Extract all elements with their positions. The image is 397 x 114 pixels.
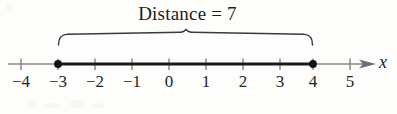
tick-label-pos4: 4 <box>296 72 330 92</box>
endpoint-dot-left <box>54 60 62 68</box>
endpoint-dot-right <box>309 60 317 68</box>
number-line-svg <box>0 0 397 114</box>
tick-label-pos2: 2 <box>226 72 260 92</box>
tick-label-neg1: −1 <box>115 72 149 92</box>
tick-label-pos3: 3 <box>263 72 297 92</box>
tick-label-neg4: −4 <box>4 72 38 92</box>
number-line-figure: Distance = 7 −4 −3 −2 −1 0 1 2 3 4 5 x <box>0 0 397 114</box>
tick-label-neg3: −3 <box>41 72 75 92</box>
axis-label-x: x <box>379 52 387 73</box>
distance-brace <box>59 29 313 45</box>
tick-label-neg2: −2 <box>78 72 112 92</box>
tick-label-zero: 0 <box>152 72 186 92</box>
tick-label-pos5: 5 <box>333 72 367 92</box>
tick-label-pos1: 1 <box>189 72 223 92</box>
